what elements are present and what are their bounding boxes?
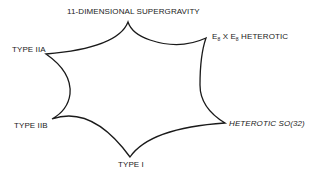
e8-suffix: HETEROTIC [239,32,288,41]
label-e8xe8-heterotic: E8 X E8 HETEROTIC [212,32,288,44]
e8-mid: X E [220,32,236,41]
label-type-i: TYPE I [118,160,144,170]
label-type-iia: TYPE IIA [12,45,46,55]
label-heterotic-so32: HETEROTIC SO(32) [229,119,305,129]
string-theory-duality-diagram: 11-DIMENSIONAL SUPERGRAVITY E8 X E8 HETE… [0,0,310,180]
label-type-iib: TYPE IIB [14,121,48,131]
moduli-space-shape [0,0,310,180]
label-11d-supergravity: 11-DIMENSIONAL SUPERGRAVITY [67,7,200,17]
